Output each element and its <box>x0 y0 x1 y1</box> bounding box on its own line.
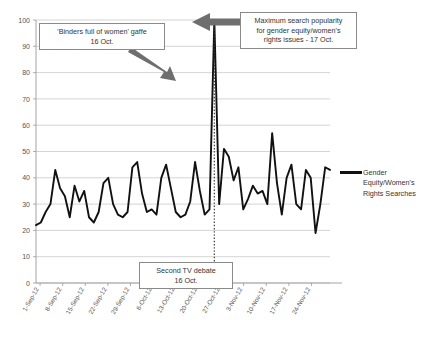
annotation-debate-line2: 16 Oct. <box>144 276 228 286</box>
x-axis-tick-label: 24-Nov-12 <box>290 286 311 316</box>
x-axis-tick-label: 10-Nov-12 <box>245 286 266 316</box>
annotation-maximum-popularity: Maximum search popularity for gender equ… <box>240 12 357 49</box>
y-axis-tick-label: 80 <box>22 69 30 76</box>
annotation-binders-gaffe: 'Binders full of women' gaffe 16 Oct. <box>39 23 165 50</box>
arrow-to-peak-icon <box>128 47 176 81</box>
annotation-binders-line1: 'Binders full of women' gaffe <box>44 27 160 37</box>
x-axis-tick-label: 8-Sep-12 <box>43 286 63 313</box>
y-axis-tick-label: 60 <box>22 122 30 129</box>
y-axis-tick-label: 20 <box>22 227 30 234</box>
legend-label-line1: Gender <box>363 168 387 177</box>
annotation-binders-line2: 16 Oct. <box>44 37 160 47</box>
y-axis-tick-label: 30 <box>22 201 30 208</box>
y-axis-tick-label: 50 <box>22 148 30 155</box>
x-axis-tick-label: 20-Oct-12 <box>178 286 198 314</box>
x-axis-tick-label: 1-Sep-12 <box>21 286 41 313</box>
annotation-debate-line1: Second TV debate <box>144 266 228 276</box>
y-axis-tick-label: 100 <box>18 17 30 24</box>
legend-label: Gender Equity/Women's Rights Searches <box>363 168 416 199</box>
y-axis-tick-label: 0 <box>26 280 30 287</box>
legend-label-line3: Rights Searches <box>363 189 416 198</box>
chart-legend: Gender Equity/Women's Rights Searches <box>340 168 432 199</box>
annotation-maximum-line3: rights issues - 17 Oct. <box>245 35 352 45</box>
x-axis-tick-label: 29-Sep-12 <box>109 286 131 316</box>
x-axis-tick-label: 22-Sep-12 <box>87 286 109 316</box>
data-series-line <box>36 20 330 233</box>
legend-color-swatch <box>340 171 362 174</box>
annotation-maximum-line1: Maximum search popularity <box>245 16 352 26</box>
arrow-to-maximum-icon <box>192 13 240 31</box>
y-axis-tick-label: 70 <box>22 96 30 103</box>
x-axis-tick-label: 27-Oct-12 <box>201 286 221 314</box>
y-axis-tick-label: 40 <box>22 174 30 181</box>
y-axis-tick-label: 90 <box>22 43 30 50</box>
annotation-maximum-line2: for gender equity/women's <box>245 26 352 36</box>
x-axis-tick-label: 3-Nov-12 <box>224 286 243 313</box>
chart-container: 01020304050607080901001-Sep-128-Sep-1215… <box>0 0 433 338</box>
x-axis-tick-label: 6-Oct-12 <box>135 286 154 311</box>
x-axis-tick-label: 15-Sep-12 <box>64 286 86 316</box>
annotation-second-tv-debate: Second TV debate 16 Oct. <box>139 262 233 289</box>
x-axis-tick-label: 13-Oct-12 <box>155 286 175 314</box>
x-axis-tick-label: 17-Nov-12 <box>268 286 289 316</box>
legend-label-line2: Equity/Women's <box>363 178 415 187</box>
y-axis-tick-label: 10 <box>22 253 30 260</box>
